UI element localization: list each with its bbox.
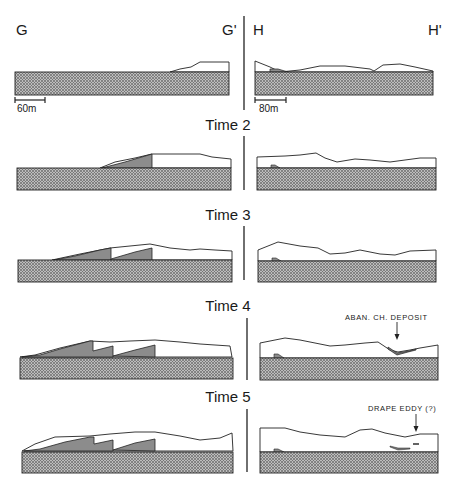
panel-5-left — [22, 432, 233, 473]
panel-3-right — [258, 242, 436, 282]
panel-2-left — [17, 154, 231, 190]
panel-5-right — [260, 414, 438, 473]
panel-3-left — [18, 244, 232, 282]
panel-4-right — [260, 322, 438, 380]
panel-1-right — [255, 61, 433, 103]
panel-2-right — [257, 153, 436, 190]
panel-1-left — [15, 62, 229, 103]
cross-section-diagram — [0, 0, 456, 491]
panel-4-left — [20, 340, 233, 379]
